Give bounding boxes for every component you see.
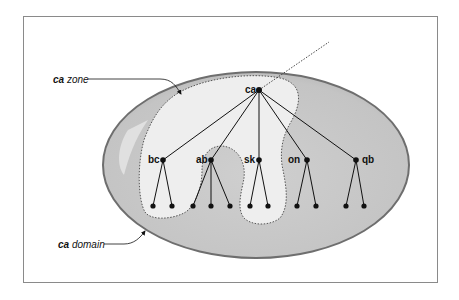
callout-ca-zone: ca zone <box>53 74 89 85</box>
dns-diagram: ca bc ab sk on qb ca zone ca domain <box>0 0 459 300</box>
node-on <box>304 157 310 163</box>
label-on: on <box>288 154 300 165</box>
label-ca: ca <box>245 84 257 95</box>
node-ca <box>256 87 262 93</box>
node-bc <box>160 157 166 163</box>
node-sk <box>256 157 262 163</box>
label-bc: bc <box>148 154 160 165</box>
callout-domain-arrow <box>104 231 145 244</box>
label-sk: sk <box>244 154 256 165</box>
node-ab <box>208 157 214 163</box>
callout-ca-domain: ca domain <box>58 239 105 250</box>
label-qb: qb <box>362 154 374 165</box>
node-qb <box>353 157 359 163</box>
label-ab: ab <box>196 154 208 165</box>
